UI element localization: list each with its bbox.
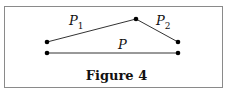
label-p: P (118, 38, 127, 51)
label-p1: P1 (69, 14, 83, 31)
vertex-right-lower (176, 51, 181, 56)
vertex-left-upper (45, 40, 50, 45)
vertex-apex (134, 17, 139, 22)
label-p2: P2 (156, 14, 170, 31)
vertex-right-upper (176, 40, 181, 45)
vertex-left-lower (45, 51, 50, 56)
figure-caption: Figure 4 (0, 68, 233, 83)
